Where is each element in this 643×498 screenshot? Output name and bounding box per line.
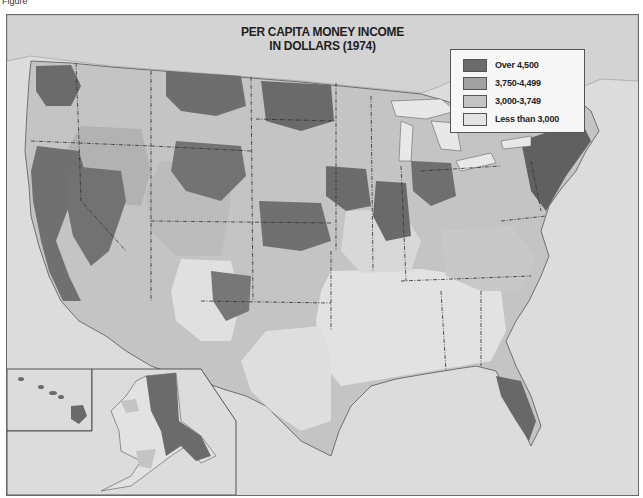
kansas-high-region bbox=[259, 201, 331, 251]
legend-label: Over 4,500 bbox=[495, 60, 539, 70]
lake-michigan bbox=[399, 121, 413, 161]
legend-swatch-3000-3749 bbox=[463, 95, 487, 108]
figure-label: Figure bbox=[2, 0, 28, 6]
legend-label: 3,000-3,749 bbox=[495, 96, 541, 106]
legend-item-3000-3749: 3,000-3,749 bbox=[463, 94, 541, 108]
legend-item-3750-4499: 3,750-4,499 bbox=[463, 76, 541, 90]
legend-swatch-3750-4499 bbox=[463, 77, 487, 90]
legend: Over 4,500 3,750-4,499 3,000-3,749 Less … bbox=[450, 49, 585, 133]
map-title-line1: PER CAPITA MONEY INCOME bbox=[27, 25, 619, 39]
legend-label: Less than 3,000 bbox=[495, 114, 559, 124]
legend-swatch-less-than-3000 bbox=[463, 113, 487, 126]
map-frame: PER CAPITA MONEY INCOME IN DOLLARS (1974… bbox=[6, 14, 639, 496]
legend-item-over-4500: Over 4,500 bbox=[463, 58, 539, 72]
legend-label: 3,750-4,499 bbox=[495, 78, 541, 88]
legend-item-less-than-3000: Less than 3,000 bbox=[463, 112, 559, 126]
legend-swatch-over-4500 bbox=[463, 59, 487, 72]
